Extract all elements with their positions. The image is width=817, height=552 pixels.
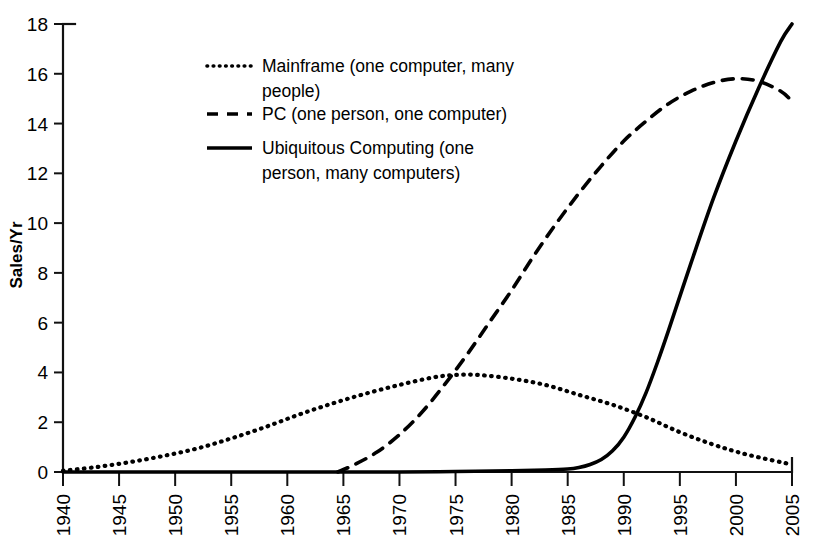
y-tick-label: 16 <box>27 64 48 85</box>
x-tick-label: 2005 <box>782 494 803 536</box>
y-axis-ticks: 024681012141618 <box>27 14 63 483</box>
x-axis-ticks: 1940194519501955196019651970197519801985… <box>53 472 803 536</box>
x-tick-label: 2000 <box>726 494 747 536</box>
x-tick-label: 1945 <box>109 494 130 536</box>
legend-label: person, many computers) <box>262 163 460 183</box>
x-tick-label: 1940 <box>53 494 74 536</box>
chart-container: 024681012141618 194019451950195519601965… <box>0 0 817 552</box>
line-chart: 024681012141618 194019451950195519601965… <box>0 0 817 552</box>
y-tick-label: 8 <box>37 263 48 284</box>
x-tick-label: 1960 <box>277 494 298 536</box>
axis-frame <box>63 24 792 472</box>
legend-label: PC (one person, one computer) <box>262 104 507 124</box>
y-tick-label: 14 <box>27 114 49 135</box>
data-series <box>63 24 792 472</box>
legend-label: people) <box>262 81 320 101</box>
x-tick-label: 1955 <box>221 494 242 536</box>
x-tick-label: 1970 <box>389 494 410 536</box>
x-tick-label: 1995 <box>670 494 691 536</box>
x-tick-label: 1985 <box>558 494 579 536</box>
x-tick-label: 1950 <box>165 494 186 536</box>
x-tick-label: 1965 <box>333 494 354 536</box>
x-tick-label: 1980 <box>502 494 523 536</box>
series-line-solid <box>63 24 792 472</box>
legend-label: Mainframe (one computer, many <box>262 56 514 76</box>
y-tick-label: 18 <box>27 14 48 35</box>
plot-area: 024681012141618 194019451950195519601965… <box>7 14 803 536</box>
x-tick-label: 1990 <box>614 494 635 536</box>
y-tick-label: 10 <box>27 213 48 234</box>
chart-legend: Mainframe (one computer, manypeople)PC (… <box>207 56 514 183</box>
y-tick-label: 2 <box>37 412 48 433</box>
legend-label: Ubiquitous Computing (one <box>262 138 474 158</box>
y-axis-label: Sales/Yr <box>7 221 26 288</box>
y-tick-label: 4 <box>37 362 48 383</box>
series-line-dotted <box>63 375 792 471</box>
y-tick-label: 6 <box>37 313 48 334</box>
y-tick-label: 12 <box>27 163 48 184</box>
y-tick-label: 0 <box>37 462 48 483</box>
x-tick-label: 1975 <box>446 494 467 536</box>
axes <box>63 24 792 472</box>
